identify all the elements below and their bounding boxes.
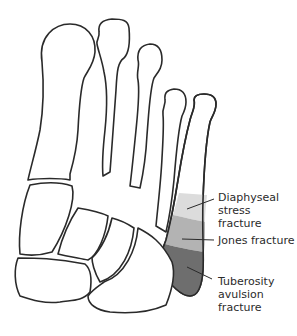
navicular [15,258,91,303]
label-jones-fracture: Jones fracture [218,234,294,247]
label-diaphyseal-stress-fracture: Diaphyseal stress fracture [218,191,297,230]
first-metatarsal [28,24,95,180]
second-metatarsal [97,19,130,176]
label-tuberosity-avulsion-fracture: Tuberosity avulsion fracture [218,275,274,314]
third-metatarsal [130,44,162,188]
